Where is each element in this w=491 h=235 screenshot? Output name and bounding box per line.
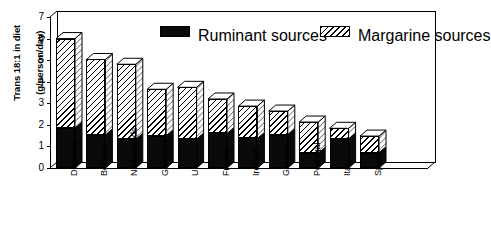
legend-label-margarine: Margarine sources	[358, 27, 491, 45]
legend-label-ruminant: Ruminant sources	[198, 27, 327, 45]
bar-segment-margarine	[360, 136, 379, 153]
x-axis-category-label: Spain	[374, 153, 383, 176]
legend-swatch-ruminant	[160, 26, 190, 37]
legend-swatch-margarine	[320, 26, 350, 37]
